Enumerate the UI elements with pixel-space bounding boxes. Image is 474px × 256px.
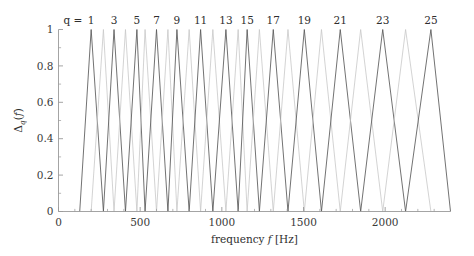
chart-background xyxy=(0,0,474,256)
peak-index-label: 7 xyxy=(153,14,160,26)
y-tick-label: 0.2 xyxy=(37,169,54,181)
figure-root: 050010001500200000.20.40.60.81frequency … xyxy=(0,0,474,256)
x-tick-label: 2000 xyxy=(372,216,399,228)
peak-index-label: 17 xyxy=(267,14,280,26)
peak-index-label: 23 xyxy=(376,14,389,26)
peak-index-label: 11 xyxy=(194,14,207,26)
peak-index-label: 19 xyxy=(298,14,311,26)
peak-index-label: 5 xyxy=(134,14,141,26)
x-tick-label: 0 xyxy=(55,216,62,228)
q-legend-prefix: q = xyxy=(64,14,83,26)
peak-index-label: 25 xyxy=(424,14,437,26)
y-tick-label: 0 xyxy=(47,205,54,217)
mel-filterbank-chart: 050010001500200000.20.40.60.81frequency … xyxy=(0,0,474,256)
y-tick-label: 1 xyxy=(47,23,54,35)
x-tick-label: 500 xyxy=(130,216,150,228)
x-axis-label: frequency f [Hz] xyxy=(211,233,298,245)
peak-index-label: 21 xyxy=(334,14,347,26)
peak-index-label: 13 xyxy=(219,14,232,26)
peak-index-label: 3 xyxy=(111,14,118,26)
peak-index-label: 15 xyxy=(240,14,253,26)
x-tick-label: 1000 xyxy=(208,216,235,228)
x-tick-label: 1500 xyxy=(290,216,317,228)
peak-index-label: 1 xyxy=(88,14,95,26)
peak-index-label: 9 xyxy=(174,14,181,26)
y-tick-label: 0.6 xyxy=(37,96,54,108)
y-tick-label: 0.4 xyxy=(37,132,54,144)
y-tick-label: 0.8 xyxy=(37,60,54,72)
